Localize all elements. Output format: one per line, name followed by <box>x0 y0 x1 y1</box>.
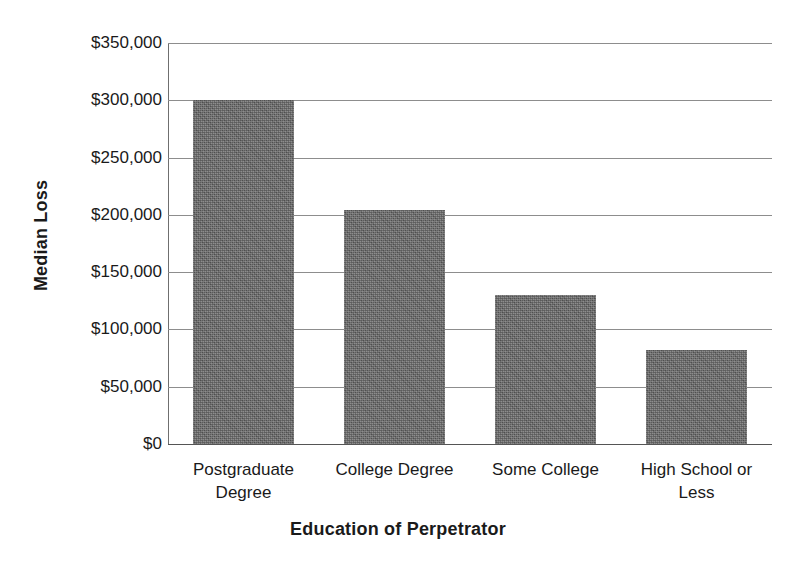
y-axis-tick-label: $100,000 <box>91 319 162 339</box>
x-axis-tick-label-line: Degree <box>168 481 319 504</box>
x-axis-tick-labels: PostgraduateDegreeCollege DegreeSome Col… <box>168 458 772 510</box>
y-axis-title-text: Median Loss <box>32 179 53 290</box>
x-axis-tick-label-line: High School or <box>621 458 772 481</box>
bar[interactable] <box>646 350 748 444</box>
x-axis-tick-label: PostgraduateDegree <box>168 458 319 504</box>
x-axis-baseline <box>168 444 772 445</box>
plot-area <box>168 43 772 444</box>
y-axis-tick-label: $250,000 <box>91 148 162 168</box>
y-axis-tick-label: $350,000 <box>91 33 162 53</box>
x-axis-tick-label-line: Some College <box>470 458 621 481</box>
x-axis-title: Education of Perpetrator <box>0 519 796 540</box>
bar-slot <box>168 43 319 444</box>
y-axis-tick-label: $300,000 <box>91 90 162 110</box>
x-axis-tick-label-line: Postgraduate <box>168 458 319 481</box>
x-axis-tick-label: High School orLess <box>621 458 772 504</box>
bar[interactable] <box>193 100 295 444</box>
bar-chart-figure: Median Loss $0$50,000$100,000$150,000$20… <box>0 0 796 575</box>
bar[interactable] <box>344 210 446 444</box>
y-axis-tick-label: $150,000 <box>91 262 162 282</box>
bar-slot <box>470 43 621 444</box>
y-axis-tick-label: $50,000 <box>101 377 162 397</box>
x-axis-tick-label: College Degree <box>319 458 470 481</box>
y-axis-tick-label: $0 <box>143 434 162 454</box>
bar-slot <box>319 43 470 444</box>
x-axis-tick-label-line: Less <box>621 481 772 504</box>
bar-slot <box>621 43 772 444</box>
bar[interactable] <box>495 295 597 444</box>
y-axis-tick-labels: $0$50,000$100,000$150,000$200,000$250,00… <box>56 43 162 444</box>
y-axis-tick-label: $200,000 <box>91 205 162 225</box>
x-axis-tick-label-line: College Degree <box>319 458 470 481</box>
bar-series <box>168 43 772 444</box>
x-axis-tick-label: Some College <box>470 458 621 481</box>
